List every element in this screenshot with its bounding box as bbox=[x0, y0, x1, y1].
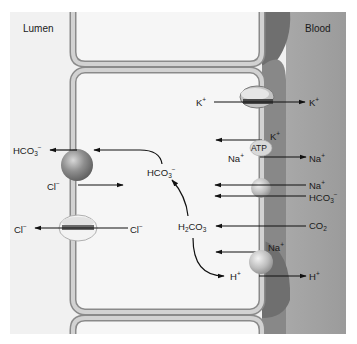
epithelial-cell-diagram bbox=[0, 0, 357, 344]
diagram-canvas: Lumen Blood K+ K+ K+ ATP Na+ Na+ Na+ HCO… bbox=[0, 0, 357, 344]
na-hco3-cotransporter bbox=[251, 178, 271, 198]
k-blood-label: K+ bbox=[309, 97, 319, 108]
lumen-label: Lumen bbox=[23, 24, 54, 34]
cl-channel-cell-label: Cl− bbox=[130, 224, 143, 235]
na-pump-in-label: Na+ bbox=[228, 153, 244, 164]
cl-channel-lumen-label: Cl− bbox=[14, 224, 27, 235]
atp-label: ATP bbox=[251, 144, 267, 153]
k-pump-label: K+ bbox=[270, 131, 280, 142]
k-intracellular-label: K+ bbox=[196, 97, 206, 108]
blood-region bbox=[286, 12, 346, 334]
na-exchange-label: Na+ bbox=[268, 242, 284, 253]
h2co3-label: H2CO3 bbox=[178, 222, 206, 234]
na-cotransport-label: Na+ bbox=[309, 180, 325, 191]
hco3-cell-label: HCO3− bbox=[147, 167, 176, 180]
na-pump-out-label: Na+ bbox=[309, 153, 325, 164]
cl-exchanger-label: Cl− bbox=[47, 181, 60, 192]
potassium-channel bbox=[240, 86, 274, 108]
h-intracellular-label: H+ bbox=[230, 271, 241, 282]
co2-label: CO2 bbox=[309, 221, 327, 233]
cl-hco3-exchanger bbox=[61, 149, 93, 181]
hco3-lumen-label: HCO3− bbox=[13, 145, 42, 158]
hco3-cotransport-label: HCO3− bbox=[309, 192, 338, 205]
h-blood-label: H+ bbox=[309, 271, 320, 282]
na-h-exchanger bbox=[249, 250, 273, 274]
blood-label: Blood bbox=[305, 24, 331, 34]
